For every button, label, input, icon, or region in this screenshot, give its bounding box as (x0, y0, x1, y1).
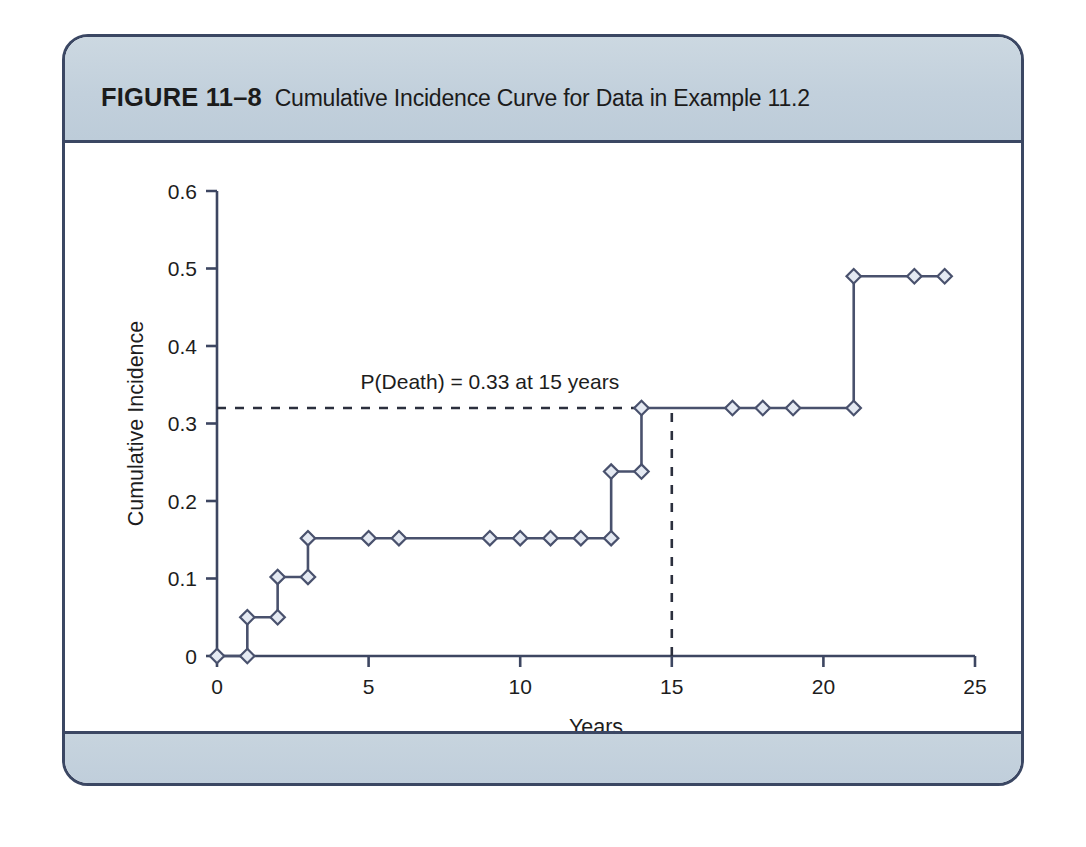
data-point-marker (574, 531, 588, 545)
data-point-marker (513, 531, 527, 545)
figure-footer-bar (65, 731, 1021, 783)
data-point-marker (392, 531, 406, 545)
plot-area: 051015202500.10.20.30.40.50.6YearsCumula… (65, 143, 1021, 737)
data-point-marker (634, 401, 648, 415)
data-point-marker (786, 401, 800, 415)
x-tick-label-15: 15 (660, 675, 683, 698)
y-tick-label-0: 0 (185, 645, 197, 668)
y-tick-label-0.2: 0.2 (168, 490, 197, 513)
y-tick-label-0.6: 0.6 (168, 180, 197, 203)
data-point-marker (543, 531, 557, 545)
y-tick-label-0.4: 0.4 (168, 335, 198, 358)
data-point-marker (907, 269, 921, 283)
data-point-marker (847, 401, 861, 415)
data-point-marker (604, 531, 618, 545)
data-point-marker (634, 464, 648, 478)
x-tick-label-20: 20 (812, 675, 835, 698)
data-point-marker (725, 401, 739, 415)
data-point-marker (604, 464, 618, 478)
figure-caption-text: Cumulative Incidence Curve for Data in E… (275, 85, 810, 111)
data-point-marker (756, 401, 770, 415)
step-curve-0 (217, 276, 945, 656)
data-point-marker (270, 570, 284, 584)
x-tick-label-25: 25 (963, 675, 986, 698)
x-tick-label-0: 0 (211, 675, 223, 698)
y-tick-label-0.5: 0.5 (168, 257, 197, 280)
cumulative-incidence-chart: 051015202500.10.20.30.40.50.6YearsCumula… (65, 143, 1021, 737)
figure-card: FIGURE 11–8 Cumulative Incidence Curve f… (62, 34, 1024, 786)
data-point-marker (361, 531, 375, 545)
x-tick-label-10: 10 (509, 675, 532, 698)
figure-caption: FIGURE 11–8 Cumulative Incidence Curve f… (101, 83, 810, 112)
figure-header-bar: FIGURE 11–8 Cumulative Incidence Curve f… (65, 37, 1021, 143)
y-tick-label-0.1: 0.1 (168, 567, 197, 590)
data-point-marker (483, 531, 497, 545)
chart-annotation: P(Death) = 0.33 at 15 years (361, 370, 620, 393)
x-tick-label-5: 5 (363, 675, 375, 698)
data-point-marker (270, 610, 284, 624)
data-point-marker (847, 269, 861, 283)
data-point-marker (937, 269, 951, 283)
y-tick-label-0.3: 0.3 (168, 412, 197, 435)
data-point-marker (210, 649, 224, 663)
data-point-marker (240, 649, 254, 663)
figure-number: FIGURE 11–8 (101, 83, 262, 111)
data-point-marker (240, 610, 254, 624)
y-axis-title: Cumulative Incidence (124, 321, 148, 527)
data-point-marker (301, 570, 315, 584)
data-point-marker (301, 531, 315, 545)
